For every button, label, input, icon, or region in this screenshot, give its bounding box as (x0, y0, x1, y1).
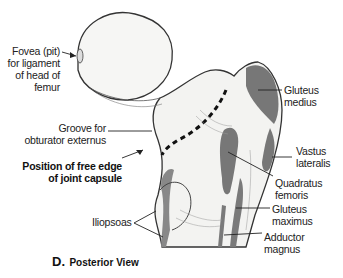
fovea-pit (77, 49, 83, 63)
label-gluteus-medius-line2: medius (284, 96, 319, 108)
label-adductor-magnus-line1: Adductor (264, 231, 304, 243)
label-fovea: Fovea (pit) for ligament of head of femu… (4, 45, 60, 93)
figure-caption: D. Posterior View (52, 252, 139, 270)
label-vastus-lateralis-line2: lateralis (296, 157, 330, 169)
label-quadratus-femoris-line1: Quadratus (275, 177, 322, 189)
label-vastus-lateralis-line1: Vastus (296, 145, 330, 157)
label-groove-line2: obturator externus (20, 134, 106, 146)
label-fovea-line4: femur (4, 81, 60, 93)
label-quadratus-femoris-line2: femoris (275, 189, 322, 201)
caption-letter: D. (52, 254, 65, 269)
label-vastus-lateralis: Vastus lateralis (296, 145, 330, 169)
label-capsule-line1: Position of free edge (10, 160, 122, 172)
femur-diagram: Fovea (pit) for ligament of head of femu… (0, 0, 343, 278)
label-gluteus-medius-line1: Gluteus (284, 84, 319, 96)
femur-head (78, 13, 172, 100)
label-fovea-line3: of head of (4, 69, 60, 81)
label-iliopsoas: Iliopsoas (92, 216, 132, 228)
caption-text: Posterior View (69, 257, 138, 268)
label-joint-capsule-edge: Position of free edge of joint capsule (10, 160, 122, 184)
label-fovea-line1: Fovea (pit) (4, 45, 60, 57)
label-gluteus-maximus-line2: maximus (272, 215, 313, 227)
label-adductor-magnus-line2: magnus (264, 243, 304, 255)
label-capsule-line2: of joint capsule (10, 172, 122, 184)
label-groove-line1: Groove for (20, 122, 106, 134)
label-quadratus-femoris: Quadratus femoris (275, 177, 322, 201)
label-groove-obturator-externus: Groove for obturator externus (20, 122, 106, 146)
label-gluteus-medius: Gluteus medius (284, 84, 319, 108)
label-gluteus-maximus-line1: Gluteus (272, 203, 313, 215)
label-adductor-magnus: Adductor magnus (264, 231, 304, 255)
label-fovea-line2: for ligament (4, 57, 60, 69)
label-gluteus-maximus: Gluteus maximus (272, 203, 313, 227)
